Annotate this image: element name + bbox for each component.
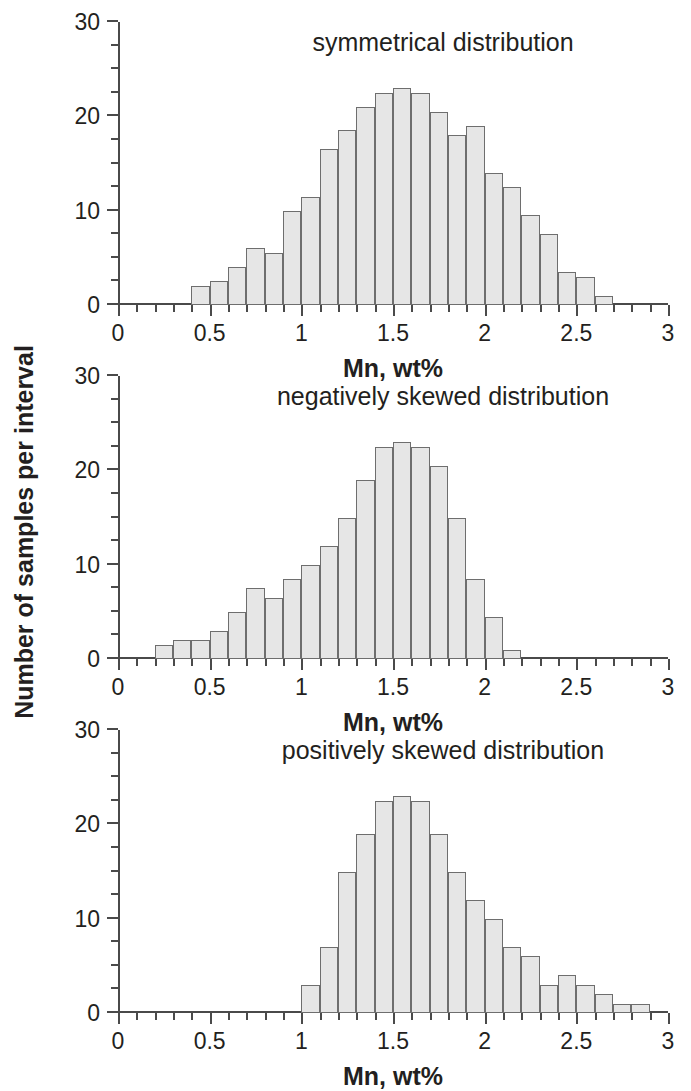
y-axis-minor-tick [111, 185, 118, 187]
y-axis-minor-tick [111, 964, 118, 966]
x-axis-minor-tick [448, 305, 450, 312]
x-axis-minor-tick [155, 1013, 157, 1020]
x-axis-minor-tick [430, 1013, 432, 1020]
histogram-bar [613, 1004, 631, 1013]
histogram-bar [448, 518, 466, 660]
x-tick-label: 0.5 [194, 674, 226, 701]
y-axis-minor-tick [111, 421, 118, 423]
x-axis-minor-tick [356, 659, 358, 666]
histogram-bar [466, 126, 484, 305]
histogram-bar [411, 801, 429, 1013]
y-axis-minor-tick [111, 138, 118, 140]
x-axis-minor-tick [228, 1013, 230, 1020]
x-axis-minor-tick [136, 1013, 138, 1020]
y-tick-label: 10 [74, 197, 100, 224]
y-tick-label: 20 [74, 103, 100, 130]
histogram-bar [265, 598, 283, 659]
histogram-bar [356, 834, 374, 1013]
y-axis-minor-tick [111, 610, 118, 612]
histogram-bar [393, 442, 411, 659]
histogram-bar [173, 640, 191, 659]
y-axis-line [118, 376, 120, 659]
histogram-bar [595, 296, 613, 305]
x-axis-major-tick [210, 305, 212, 316]
histogram-bar [246, 248, 264, 305]
x-axis-minor-tick [283, 659, 285, 666]
x-axis-minor-tick [375, 1013, 377, 1020]
y-axis-minor-tick [111, 870, 118, 872]
y-axis-major-tick [107, 20, 118, 22]
x-axis-minor-tick [521, 305, 523, 312]
histogram-bar [228, 612, 246, 659]
x-axis-minor-tick [411, 305, 413, 312]
x-axis-minor-tick [228, 305, 230, 312]
histogram-bar [430, 112, 448, 305]
x-axis-minor-tick [558, 1013, 560, 1020]
x-tick-label: 0 [112, 1028, 125, 1055]
x-axis-major-tick [485, 659, 487, 670]
x-axis-minor-tick [136, 305, 138, 312]
x-axis-minor-tick [375, 305, 377, 312]
x-axis-minor-tick [338, 305, 340, 312]
histogram-bar [283, 211, 301, 305]
x-axis-minor-tick [503, 305, 505, 312]
histogram-bar [485, 617, 503, 659]
x-tick-label: 2 [478, 674, 491, 701]
x-axis-minor-tick [650, 305, 652, 312]
x-axis-minor-tick [155, 305, 157, 312]
x-axis-major-tick [393, 659, 395, 670]
x-axis-minor-tick [411, 659, 413, 666]
x-axis-label: Mn, wt% [118, 1062, 668, 1091]
y-axis-minor-tick [111, 586, 118, 588]
histogram-bar [540, 234, 558, 305]
x-axis-minor-tick [595, 659, 597, 666]
x-tick-label: 0 [112, 320, 125, 347]
y-axis-minor-tick [111, 445, 118, 447]
histogram-bar [338, 872, 356, 1014]
x-axis-minor-tick [631, 659, 633, 666]
histogram-bar [265, 253, 283, 305]
histogram-bar [558, 272, 576, 305]
chart-panel-symmetrical: symmetrical distribution Mn, wt% 00.511.… [48, 0, 691, 355]
histogram-bar [595, 994, 613, 1013]
y-axis-minor-tick [111, 893, 118, 895]
histogram-bar [375, 447, 393, 659]
y-axis-minor-tick [111, 44, 118, 46]
x-axis-minor-tick [191, 305, 193, 312]
x-axis-minor-tick [320, 659, 322, 666]
histogram-bar [301, 197, 319, 305]
histogram-bar [576, 985, 594, 1013]
histogram-bar [191, 286, 209, 305]
histogram-bar [375, 801, 393, 1013]
x-axis-minor-tick [521, 1013, 523, 1020]
y-axis-minor-tick [111, 799, 118, 801]
y-tick-label: 0 [87, 646, 100, 673]
x-tick-label: 2.5 [560, 320, 592, 347]
x-axis-minor-tick [650, 1013, 652, 1020]
x-tick-label: 2.5 [560, 1028, 592, 1055]
y-tick-label: 30 [74, 717, 100, 744]
x-axis-minor-tick [283, 1013, 285, 1020]
histogram-bar [393, 88, 411, 305]
x-tick-label: 3 [662, 320, 675, 347]
x-axis-major-tick [576, 659, 578, 670]
x-axis-major-tick [576, 1013, 578, 1024]
x-axis-major-tick [485, 305, 487, 316]
x-axis-major-tick [301, 305, 303, 316]
y-axis-major-tick [107, 468, 118, 470]
y-tick-label: 20 [74, 811, 100, 838]
x-axis-minor-tick [173, 305, 175, 312]
x-axis-minor-tick [191, 659, 193, 666]
x-axis-minor-tick [540, 1013, 542, 1020]
histogram-bar [210, 281, 228, 305]
histogram-bar [521, 956, 539, 1013]
histogram-bar [503, 947, 521, 1013]
y-axis-major-tick [107, 303, 118, 305]
histogram-bar [246, 588, 264, 659]
histogram-bar [448, 872, 466, 1014]
y-axis-label-container: Number of samples per interval [0, 0, 48, 1063]
x-axis-minor-tick [613, 305, 615, 312]
histogram-bar [320, 149, 338, 305]
x-tick-label: 1.5 [377, 674, 409, 701]
x-axis-major-tick [301, 1013, 303, 1024]
